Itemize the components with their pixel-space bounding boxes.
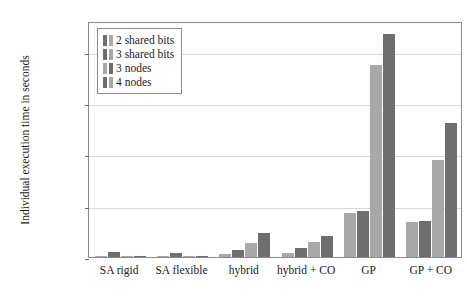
bar-group bbox=[282, 23, 333, 257]
bar-group bbox=[219, 23, 270, 257]
bar bbox=[295, 248, 307, 257]
bar bbox=[344, 213, 356, 257]
legend-item: 2 shared bits bbox=[103, 33, 174, 47]
bar bbox=[370, 65, 382, 257]
bar bbox=[121, 256, 133, 257]
x-tick-label: SA flexible bbox=[150, 264, 212, 276]
legend-item-label: 4 nodes bbox=[116, 77, 151, 88]
bar bbox=[357, 211, 369, 257]
y-tick-mark bbox=[85, 259, 89, 260]
legend-item: 3 nodes bbox=[103, 61, 174, 75]
x-tick-label: hybrid bbox=[213, 264, 275, 276]
bar bbox=[445, 123, 457, 257]
legend-item-label: 3 shared bits bbox=[116, 49, 174, 60]
bar bbox=[232, 250, 244, 257]
legend-swatch-icon bbox=[103, 63, 113, 74]
legend-item: 3 shared bits bbox=[103, 47, 174, 61]
bar bbox=[108, 252, 120, 257]
bar-chart-figure: Individual execution time in seconds 010… bbox=[0, 0, 467, 299]
bar-group bbox=[406, 23, 457, 257]
chart-legend: 2 shared bits3 shared bits3 nodes4 nodes bbox=[97, 28, 182, 94]
bar bbox=[282, 253, 294, 257]
bar bbox=[383, 34, 395, 257]
legend-swatch-icon bbox=[103, 49, 113, 60]
bar bbox=[95, 256, 107, 257]
bar bbox=[308, 242, 320, 257]
bar bbox=[157, 256, 169, 257]
x-tick-label: GP + CO bbox=[400, 264, 462, 276]
bar bbox=[134, 256, 146, 257]
x-tick-label: hybrid + CO bbox=[275, 264, 337, 276]
legend-swatch-icon bbox=[103, 77, 113, 88]
bar bbox=[406, 222, 418, 257]
bar bbox=[258, 233, 270, 257]
bar bbox=[321, 236, 333, 257]
y-axis-title: Individual execution time in seconds bbox=[19, 15, 31, 265]
bar bbox=[196, 256, 208, 257]
bar bbox=[245, 243, 257, 257]
legend-item-label: 3 nodes bbox=[116, 63, 151, 74]
legend-item-label: 2 shared bits bbox=[116, 35, 174, 46]
bar bbox=[170, 253, 182, 257]
bar bbox=[432, 160, 444, 257]
legend-item: 4 nodes bbox=[103, 75, 174, 89]
bar bbox=[419, 221, 431, 257]
bar-group bbox=[344, 23, 395, 257]
x-tick-label: GP bbox=[337, 264, 399, 276]
legend-swatch-icon bbox=[103, 35, 113, 46]
bar bbox=[183, 256, 195, 257]
bar bbox=[219, 254, 231, 257]
x-tick-label: SA rigid bbox=[88, 264, 150, 276]
